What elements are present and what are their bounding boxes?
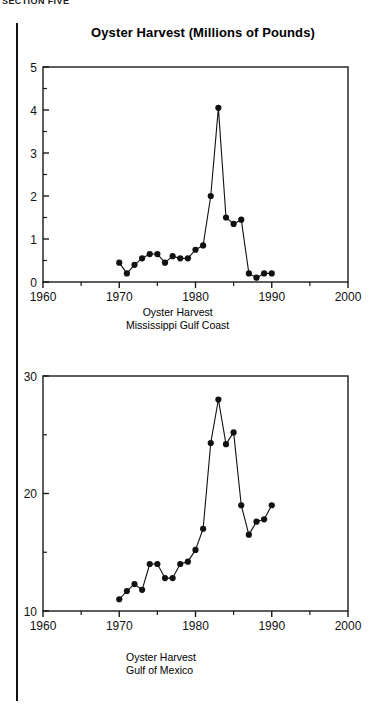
data-point	[147, 561, 153, 567]
data-point	[116, 596, 122, 602]
data-point	[131, 581, 137, 587]
caption-line-2: Mississippi Gulf Coast	[126, 319, 229, 332]
data-point	[170, 575, 176, 581]
chart-mississippi-gulf-coast: 01234519601970198019902000	[0, 60, 383, 310]
data-point	[185, 559, 191, 565]
running-head: SECTION FIVE	[2, 0, 69, 5]
data-point	[162, 575, 168, 581]
x-axis-tick-label: 1980	[182, 619, 209, 633]
x-axis-tick-label: 1960	[30, 619, 57, 633]
data-point	[238, 502, 244, 508]
x-axis-tick-label: 1990	[258, 619, 285, 633]
data-point	[200, 242, 206, 248]
data-point	[170, 253, 176, 259]
y-axis-tick-label: 4	[30, 104, 37, 118]
figure-oyster-harvest-gulf-of-mexico: 10203019601970198019902000 Oyster Harves…	[0, 367, 383, 697]
data-point	[215, 396, 221, 402]
data-point	[231, 429, 237, 435]
x-axis-tick-label: 1960	[30, 290, 57, 304]
x-axis-tick-label: 1970	[106, 619, 133, 633]
y-axis-tick-label: 3	[30, 147, 37, 161]
data-point	[231, 221, 237, 227]
data-point	[208, 193, 214, 199]
data-point	[200, 526, 206, 532]
data-point	[261, 270, 267, 276]
y-axis-tick-label: 2	[30, 190, 37, 204]
x-axis-tick-label: 2000	[335, 290, 362, 304]
data-point	[215, 105, 221, 111]
data-point	[154, 561, 160, 567]
caption-line-2: Gulf of Mexico	[126, 664, 196, 677]
data-point	[223, 214, 229, 220]
figure-caption-mississippi: Oyster Harvest Mississippi Gulf Coast	[126, 306, 229, 332]
x-axis-tick-label: 2000	[335, 619, 362, 633]
data-point	[246, 532, 252, 538]
data-point	[246, 270, 252, 276]
y-axis-tick-label: 5	[30, 61, 37, 75]
data-point	[269, 502, 275, 508]
x-axis-tick-label: 1990	[258, 290, 285, 304]
data-point	[124, 588, 130, 594]
data-point	[253, 519, 259, 525]
data-point	[154, 251, 160, 257]
data-point	[223, 441, 229, 447]
x-axis-tick-label: 1970	[106, 290, 133, 304]
data-point	[269, 270, 275, 276]
data-point	[238, 217, 244, 223]
data-point	[192, 547, 198, 553]
plot-frame	[43, 376, 348, 611]
data-point	[139, 587, 145, 593]
y-axis-tick-label: 0	[30, 276, 37, 290]
chart-gulf-of-mexico: 10203019601970198019902000	[0, 367, 383, 657]
data-point	[253, 275, 259, 281]
y-axis-tick-label: 20	[24, 487, 38, 501]
y-axis-tick-label: 10	[24, 605, 38, 619]
data-point	[208, 440, 214, 446]
data-point	[116, 260, 122, 266]
figure-oyster-harvest-mississippi: 01234519601970198019902000 Oyster Harves…	[0, 60, 383, 350]
data-point	[261, 516, 267, 522]
data-point	[131, 262, 137, 268]
x-axis-tick-label: 1980	[182, 290, 209, 304]
data-point	[177, 255, 183, 261]
data-point	[147, 251, 153, 257]
caption-line-1: Oyster Harvest	[126, 651, 196, 664]
data-point	[185, 255, 191, 261]
y-axis-tick-label: 30	[24, 370, 38, 384]
data-point	[124, 270, 130, 276]
data-point	[162, 260, 168, 266]
y-axis-tick-label: 1	[30, 233, 37, 247]
data-point	[139, 255, 145, 261]
figure-caption-gulf-of-mexico: Oyster Harvest Gulf of Mexico	[126, 651, 196, 677]
caption-line-1: Oyster Harvest	[126, 306, 229, 319]
data-point	[177, 561, 183, 567]
series-line	[119, 400, 272, 600]
page-title: Oyster Harvest (Millions of Pounds)	[57, 25, 349, 40]
data-point	[192, 247, 198, 253]
